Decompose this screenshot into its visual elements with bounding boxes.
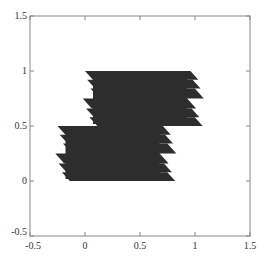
x-tick-label: -0.5 [25, 240, 41, 251]
x-tick-label: 0.5 [134, 240, 147, 251]
x-tick-label: 0 [83, 240, 88, 251]
y-tick-label: 1 [22, 65, 27, 76]
y-tick-label: 0 [22, 175, 27, 186]
fractal-tile-chart: -0.500.511.5 -0.500.511.5 [0, 0, 265, 257]
y-tick-label: 0.5 [15, 120, 28, 131]
plot-area [52, 71, 206, 181]
x-tick-label: 1.5 [244, 240, 257, 251]
y-tick-label: 1.5 [15, 10, 28, 21]
texture-lines [52, 71, 206, 179]
tile-core [93, 73, 187, 124]
tile-core [66, 128, 160, 179]
x-tick-label: 1 [193, 240, 198, 251]
y-tick-label: -0.5 [11, 226, 27, 237]
